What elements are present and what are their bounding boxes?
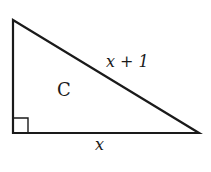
hypotenuse-label: x + 1 xyxy=(106,52,149,71)
base-label: x xyxy=(95,135,104,154)
right-angle-marker xyxy=(14,118,28,132)
right-triangle xyxy=(13,20,199,133)
triangle-diagram: x + 1 C x xyxy=(0,0,211,172)
region-label: C xyxy=(57,79,71,100)
